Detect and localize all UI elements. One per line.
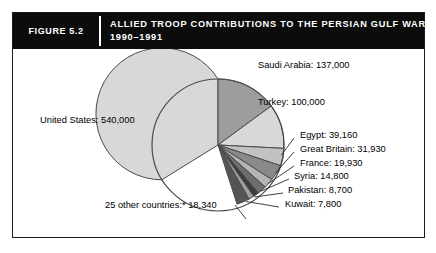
leader-line-kuwait: [246, 202, 279, 208]
figure-number-label: FIGURE 5.2: [13, 13, 99, 49]
chart-body: Saudi Arabia: 137,000 Turkey: 100,000 Eg…: [13, 49, 424, 237]
label-france: France: 19,930: [300, 158, 363, 168]
label-great-britain: Great Britain: 31,930: [300, 144, 386, 154]
figure-title: ALLIED TROOP CONTRIBUTIONS TO THE PERSIA…: [101, 13, 435, 49]
figure-title-line-1: ALLIED TROOP CONTRIBUTIONS TO THE PERSIA…: [110, 18, 429, 31]
leader-line-pakistan: [255, 193, 284, 197]
label-other-countries: 25 other countries:* 18,340: [105, 200, 217, 210]
figure-container: FIGURE 5.2 ALLIED TROOP CONTRIBUTIONS TO…: [12, 12, 425, 238]
figure-title-line-2: 1990–1991: [110, 31, 429, 44]
figure-header-band: FIGURE 5.2 ALLIED TROOP CONTRIBUTIONS TO…: [13, 13, 424, 49]
label-turkey: Turkey: 100,000: [258, 97, 325, 107]
label-egypt: Egypt: 39,160: [300, 130, 357, 140]
label-kuwait: Kuwait: 7,800: [285, 199, 341, 209]
label-pakistan: Pakistan: 8,700: [288, 185, 352, 195]
label-syria: Syria: 14,800: [294, 171, 349, 181]
pie-chart-graphic: [13, 49, 424, 237]
label-saudi-arabia: Saudi Arabia: 137,000: [258, 60, 350, 70]
label-united-states: United States: 540,000: [40, 115, 135, 125]
